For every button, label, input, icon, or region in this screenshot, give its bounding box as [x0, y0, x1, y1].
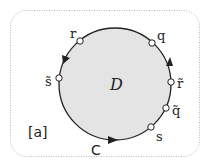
region-label: D [109, 75, 123, 94]
label-r: r [70, 26, 77, 41]
point-q-tilde [163, 105, 169, 111]
curve-label: C [91, 142, 101, 158]
label-q: q [157, 28, 165, 43]
figure-tag: [a] [28, 124, 48, 140]
point-s-tilde [56, 75, 62, 81]
label-s-tilde: s̃ [45, 74, 52, 89]
label-q-tilde: q̃ [172, 103, 180, 118]
label-s: s [156, 129, 163, 144]
point-s [148, 124, 154, 130]
diagram: r q s̃ r̃ q̃ s D C [a] [0, 0, 209, 167]
point-r [77, 38, 83, 44]
point-q [149, 40, 155, 46]
label-r-tilde: r̃ [177, 76, 184, 91]
arrow-right-up [166, 57, 173, 66]
point-r-tilde [168, 79, 174, 85]
